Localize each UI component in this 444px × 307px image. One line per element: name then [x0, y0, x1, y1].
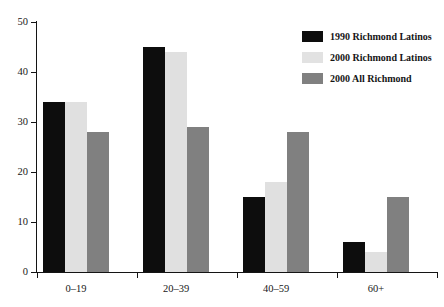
- x-category-label: 60+: [336, 283, 416, 295]
- bar: [343, 242, 365, 272]
- legend-swatch-icon: [302, 52, 323, 63]
- bar: [265, 182, 287, 272]
- bar: [243, 197, 265, 272]
- y-tick-label: 40: [0, 66, 28, 77]
- legend-item: 1990 Richmond Latinos: [302, 26, 442, 47]
- bar: [365, 252, 387, 272]
- chart-legend: 1990 Richmond Latinos 2000 Richmond Lati…: [302, 26, 442, 89]
- x-category-label: 20–39: [136, 283, 216, 295]
- legend-item-label: 2000 All Richmond: [330, 73, 412, 84]
- bar: [287, 132, 309, 272]
- bar: [165, 52, 187, 272]
- x-tick-mark: [137, 272, 138, 278]
- y-tick-label: 20: [0, 166, 28, 177]
- y-tick-label: 0: [0, 266, 28, 277]
- bar: [65, 102, 87, 272]
- legend-item-label: 2000 Richmond Latinos: [330, 52, 432, 63]
- legend-item-label: 1990 Richmond Latinos: [330, 31, 432, 42]
- y-tick-label: 50: [0, 16, 28, 27]
- x-tick-mark: [237, 272, 238, 278]
- legend-swatch-icon: [302, 73, 323, 84]
- bar: [187, 127, 209, 272]
- x-tick-mark: [337, 272, 338, 278]
- bar-chart: 01020304050 0–1920–3940–5960+ 1990 Richm…: [0, 0, 444, 307]
- legend-item: 2000 Richmond Latinos: [302, 47, 442, 68]
- x-category-label: 0–19: [36, 283, 116, 295]
- legend-item: 2000 All Richmond: [302, 68, 442, 89]
- bar: [387, 197, 409, 272]
- y-tick-label: 10: [0, 216, 28, 227]
- bar: [143, 47, 165, 272]
- x-tick-mark: [37, 272, 38, 278]
- x-category-label: 40–59: [236, 283, 316, 295]
- x-tick-mark: [437, 272, 438, 278]
- y-tick-label: 30: [0, 116, 28, 127]
- bar: [87, 132, 109, 272]
- legend-swatch-icon: [302, 31, 323, 42]
- bar: [43, 102, 65, 272]
